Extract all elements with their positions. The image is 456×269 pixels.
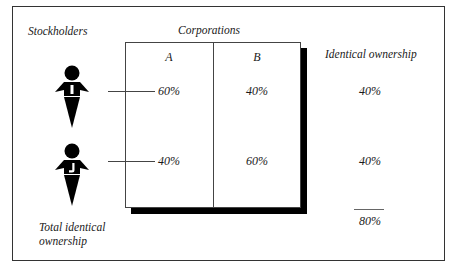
connector-line-i <box>108 91 155 92</box>
connector-line-j <box>108 161 155 162</box>
stockholder-j-corp-b: 60% <box>246 154 268 169</box>
stockholder-i-icon <box>52 65 92 129</box>
total-identical-value: 80% <box>359 214 381 229</box>
corporations-header: Corporations <box>178 24 240 36</box>
total-label-line2: ownership <box>39 235 87 247</box>
corporation-a-header: A <box>165 50 172 65</box>
sum-line <box>354 209 384 210</box>
identical-ownership-header: Identical ownership <box>325 48 417 60</box>
stockholder-i-corp-b: 40% <box>246 84 268 99</box>
total-label-line1: Total identical <box>39 221 105 233</box>
stockholder-j-icon <box>52 143 92 207</box>
stockholder-i-identical: 40% <box>359 84 381 99</box>
stockholder-j-corp-a: 40% <box>158 154 180 169</box>
corporation-b-header: B <box>253 50 260 65</box>
column-divider <box>213 42 214 208</box>
stockholder-i-corp-a: 60% <box>158 84 180 99</box>
stockholder-j-identical: 40% <box>359 154 381 169</box>
stockholders-header: Stockholders <box>28 25 87 37</box>
